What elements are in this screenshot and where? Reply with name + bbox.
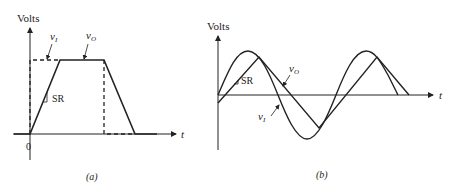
input-label-a: vI: [50, 30, 58, 44]
output-trapezoid-a: [14, 60, 157, 134]
vi-pointer-a: [47, 44, 52, 59]
vi-pointer-b: [271, 105, 279, 116]
caption-a: (a): [86, 171, 98, 183]
input-label-b: vI: [258, 110, 266, 124]
caption-b: (b): [316, 169, 328, 181]
slope-label-b: SR: [241, 75, 254, 86]
origin-label-a: 0: [26, 141, 31, 152]
slope-label-a: SR: [52, 93, 65, 104]
y-axis-label-b: Volts: [207, 20, 229, 32]
panel-a: Volts t 0 vI vO SR (a): [13, 12, 185, 183]
output-label-b: vO: [289, 62, 299, 76]
panel-b: Volts t vO vI SR (b): [207, 20, 443, 181]
vo-pointer-b: [283, 75, 290, 86]
y-axis-label-a: Volts: [17, 12, 39, 24]
x-axis-label-a: t: [181, 128, 185, 140]
slew-rate-diagram: Volts t 0 vI vO SR (a) Volts t vO vI S: [0, 0, 455, 187]
vo-pointer-a: [84, 44, 88, 59]
output-label-a: vO: [86, 29, 96, 43]
output-triangle-b: [218, 57, 409, 128]
x-axis-label-b: t: [439, 89, 443, 101]
